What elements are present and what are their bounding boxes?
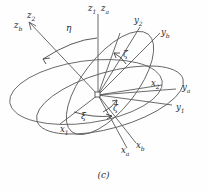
- label-angle-xi: ξ: [81, 112, 86, 121]
- axis-y1: [98, 95, 172, 105]
- angle-arc-eta: [43, 38, 97, 59]
- diagram-svg: [0, 0, 207, 193]
- origin-marker: [95, 92, 100, 97]
- label-x2: x2: [151, 79, 160, 90]
- figure-container: z1 za z2 zb y2 yb x2 ya y1 x1 xa xb η ζ …: [0, 0, 207, 193]
- plane-a-ellipse: [29, 52, 191, 148]
- label-y1: y1: [176, 103, 185, 114]
- label-z1: z1: [88, 4, 96, 15]
- axis-ya: [98, 89, 176, 95]
- axis-y2: [98, 27, 140, 95]
- angle-arc-eta-arrowhead: [43, 58, 50, 64]
- label-ya: ya: [182, 83, 190, 94]
- label-za: za: [101, 4, 109, 15]
- label-angle-zeta-lower: ζ: [113, 104, 118, 113]
- label-xb: xb: [136, 141, 145, 152]
- figure-caption: (c): [0, 170, 207, 180]
- label-yb: yb: [161, 28, 170, 39]
- label-zb: zb: [14, 21, 22, 32]
- label-angle-eta: η: [66, 24, 71, 33]
- label-y2: y2: [134, 16, 143, 27]
- label-angle-zeta-upper: ζ: [123, 50, 128, 59]
- label-z2: z2: [27, 11, 35, 22]
- axis-x1: [60, 95, 98, 124]
- label-x1: x1: [60, 125, 69, 136]
- axis-z2-zb: [29, 22, 98, 95]
- label-xa: xa: [121, 146, 129, 157]
